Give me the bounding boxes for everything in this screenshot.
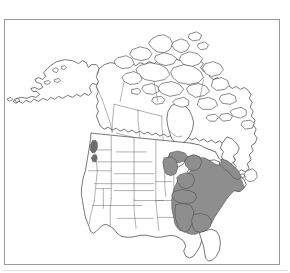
north-america-map [5, 20, 279, 264]
map-border [4, 19, 280, 265]
florida-peninsula [200, 229, 221, 261]
distribution-map-figure [0, 0, 290, 273]
footer-rule [2, 270, 288, 271]
alaska-landmass [8, 60, 100, 104]
